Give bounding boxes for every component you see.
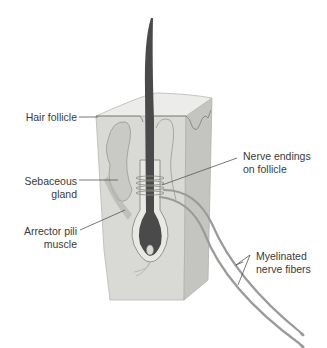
label-sebaceous-gland: Sebaceous gland bbox=[24, 175, 77, 201]
dermal-papilla bbox=[147, 245, 154, 255]
label-sebaceous-gland-line2: gland bbox=[24, 188, 77, 201]
label-nerve-endings: Nerve endings on follicle bbox=[243, 150, 311, 176]
label-arrector-pili-line1: Arrector pili bbox=[24, 225, 77, 238]
label-hair-follicle: Hair follicle bbox=[26, 111, 77, 124]
label-myelinated-line2: nerve fibers bbox=[256, 263, 311, 276]
label-arrector-pili-muscle: Arrector pili muscle bbox=[24, 225, 77, 251]
label-sebaceous-gland-line1: Sebaceous bbox=[24, 175, 77, 188]
label-myelinated-line1: Myelinated bbox=[256, 250, 311, 263]
nerve-fiber-tips bbox=[299, 331, 306, 348]
label-nerve-endings-line1: Nerve endings bbox=[243, 150, 311, 163]
label-myelinated-nerve-fibers: Myelinated nerve fibers bbox=[256, 250, 311, 276]
label-nerve-endings-line2: on follicle bbox=[243, 163, 311, 176]
label-arrector-pili-line2: muscle bbox=[24, 238, 77, 251]
